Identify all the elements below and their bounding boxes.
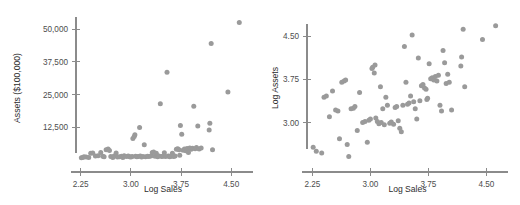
data-point (437, 103, 442, 108)
data-point (493, 23, 498, 28)
data-point (394, 104, 399, 109)
x-axis-tick-label: 2.25 (304, 180, 320, 189)
data-point-group (311, 23, 498, 159)
data-point (177, 153, 182, 158)
y-axis-title: Log Assets (270, 67, 280, 109)
data-point (207, 127, 212, 132)
data-point (391, 122, 396, 127)
data-point (458, 64, 463, 69)
data-point (372, 71, 377, 76)
x-axis-tick-label: 3.00 (123, 180, 139, 189)
data-point (416, 56, 421, 61)
y-axis-tick-label: 12,500 (43, 123, 68, 132)
data-point (459, 54, 464, 59)
data-point (207, 121, 212, 126)
data-point (330, 88, 335, 93)
data-point (399, 129, 404, 134)
y-axis-tick-label: 50,000 (43, 25, 68, 34)
data-point (352, 104, 357, 109)
data-point (210, 147, 215, 152)
data-point (142, 142, 147, 147)
data-point (158, 101, 163, 106)
data-point (357, 90, 362, 95)
x-axis-tick-label: 4.50 (478, 180, 494, 189)
y-axis-tick-label: 25,000 (43, 91, 68, 100)
x-axis-title: Log Sales (144, 184, 182, 194)
data-point (314, 149, 319, 154)
data-point-group (79, 20, 242, 160)
scatter-plot-figure: 12,50025,00037,50050,0002.253.003.754.50… (0, 0, 520, 205)
chart-panel-logassets-vs-logsales: 3.003.754.502.253.003.754.50Log SalesLog… (260, 0, 520, 205)
data-point (400, 103, 405, 108)
data-point (445, 72, 450, 77)
data-point (411, 99, 416, 104)
data-point (380, 106, 385, 111)
data-point (382, 122, 387, 127)
data-point (209, 41, 214, 46)
data-point (424, 87, 429, 92)
data-point (417, 98, 422, 103)
x-axis-title: Log Sales (388, 184, 426, 194)
y-axis-title: Assets ($100,000) (12, 53, 22, 123)
x-axis-tick-label: 2.25 (73, 180, 89, 189)
data-point (324, 94, 329, 99)
data-point (441, 48, 446, 53)
chart-canvas-right: 3.003.754.502.253.003.754.50Log SalesLog… (260, 0, 520, 205)
data-point (199, 145, 204, 150)
data-point (403, 80, 408, 85)
data-point (345, 142, 350, 147)
y-axis-tick-label: 37,500 (43, 58, 68, 67)
data-point (368, 117, 373, 122)
data-point (480, 37, 485, 42)
y-axis-tick-label: 4.50 (283, 32, 299, 41)
data-point (132, 132, 137, 137)
chart-panel-assets-vs-logsales: 12,50025,00037,50050,0002.253.003.754.50… (0, 0, 260, 205)
data-point (439, 109, 444, 114)
data-point (165, 70, 170, 75)
data-point (237, 20, 242, 25)
data-point (378, 84, 383, 89)
data-point (373, 62, 378, 67)
data-point (102, 154, 107, 159)
data-point (337, 136, 342, 141)
data-point (413, 106, 418, 111)
y-axis-tick-label: 3.00 (283, 119, 299, 128)
data-point (434, 79, 439, 84)
data-point (191, 104, 196, 109)
data-point (447, 80, 452, 85)
data-point (343, 77, 348, 82)
data-point (462, 84, 467, 89)
data-point (436, 73, 441, 78)
x-axis-tick-label: 4.50 (223, 180, 239, 189)
data-point (195, 123, 200, 128)
data-point (408, 94, 413, 99)
data-point (137, 125, 142, 130)
data-point (178, 123, 183, 128)
data-point (427, 61, 432, 66)
data-point (335, 109, 340, 114)
data-point (385, 103, 390, 108)
chart-canvas-left: 12,50025,00037,50050,0002.253.003.754.50… (0, 0, 260, 205)
data-point (355, 128, 360, 133)
y-axis-tick-label: 3.75 (283, 75, 299, 84)
data-point (402, 44, 407, 49)
data-point (179, 132, 184, 137)
data-point (414, 117, 419, 122)
data-point (425, 96, 430, 101)
x-axis-tick-label: 3.00 (362, 180, 378, 189)
data-point (396, 118, 401, 123)
data-point (327, 114, 332, 119)
data-point (319, 151, 324, 156)
data-point (173, 154, 178, 159)
data-point (461, 27, 466, 32)
data-point (383, 95, 388, 100)
data-point (407, 100, 412, 105)
data-point (346, 154, 351, 159)
data-point (449, 107, 454, 112)
data-point (365, 140, 370, 145)
data-point (107, 148, 112, 153)
data-point (442, 60, 447, 65)
data-point (311, 145, 316, 150)
data-point (410, 33, 415, 38)
data-point (225, 89, 230, 94)
